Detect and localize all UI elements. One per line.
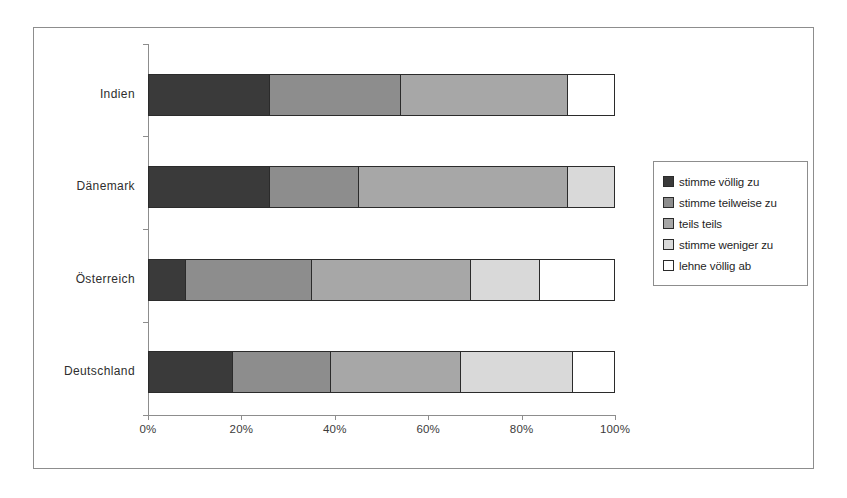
bar-segment [330,351,461,393]
legend-label: stimme völlig zu [679,176,759,188]
legend-item[interactable]: lehne völlig ab [663,255,800,276]
category-label: Dänemark [0,179,135,193]
category-label: Indien [0,87,135,101]
bar-segment [148,74,270,116]
x-tick [522,415,523,420]
bar-segment [148,351,233,393]
x-tick-label: 20% [211,423,271,435]
bar-segment [311,259,470,301]
bar-segment [148,166,270,208]
legend-label: lehne völlig ab [679,260,751,272]
x-tick [241,415,242,420]
legend-item[interactable]: stimme weniger zu [663,234,800,255]
bar-segment [572,351,615,393]
stacked-bar [148,351,615,393]
x-tick-label: 60% [398,423,458,435]
bar-segment [567,166,615,208]
bar-segment [539,259,615,301]
legend-item[interactable]: teils teils [663,213,800,234]
chart-figure: 0%20%40%60%80%100% IndienDänemarkÖsterre… [0,0,847,498]
x-tick [148,415,149,420]
legend-swatch-icon [663,176,674,187]
bar-segment [148,259,186,301]
x-tick [335,415,336,420]
bar-segment [232,351,331,393]
y-tick [143,136,148,137]
stacked-bar [148,74,615,116]
y-tick [143,229,148,230]
y-tick [143,415,148,416]
legend-label: stimme weniger zu [679,239,773,251]
bar-segment [460,351,573,393]
y-tick [143,44,148,45]
x-tick [615,415,616,420]
stacked-bar [148,166,615,208]
legend-item[interactable]: stimme teilweise zu [663,192,800,213]
bar-segment [470,259,541,301]
chart-legend: stimme völlig zustimme teilweise zuteils… [653,161,808,286]
bar-segment [358,166,569,208]
legend-item[interactable]: stimme völlig zu [663,171,800,192]
category-label: Österreich [0,272,135,286]
legend-swatch-icon [663,260,674,271]
bar-segment [185,259,312,301]
x-tick-label: 40% [305,423,365,435]
x-tick [428,415,429,420]
stacked-bar [148,259,615,301]
value-axis-line [148,415,615,416]
x-tick-label: 100% [585,423,645,435]
legend-label: stimme teilweise zu [679,197,777,209]
bar-segment [400,74,569,116]
legend-swatch-icon [663,239,674,250]
y-tick [143,322,148,323]
x-tick-label: 0% [118,423,178,435]
category-label: Deutschland [0,364,135,378]
legend-label: teils teils [679,218,722,230]
legend-swatch-icon [663,197,674,208]
legend-swatch-icon [663,218,674,229]
bar-segment [269,166,359,208]
bar-segment [269,74,400,116]
bar-segment [567,74,615,116]
x-tick-label: 80% [492,423,552,435]
